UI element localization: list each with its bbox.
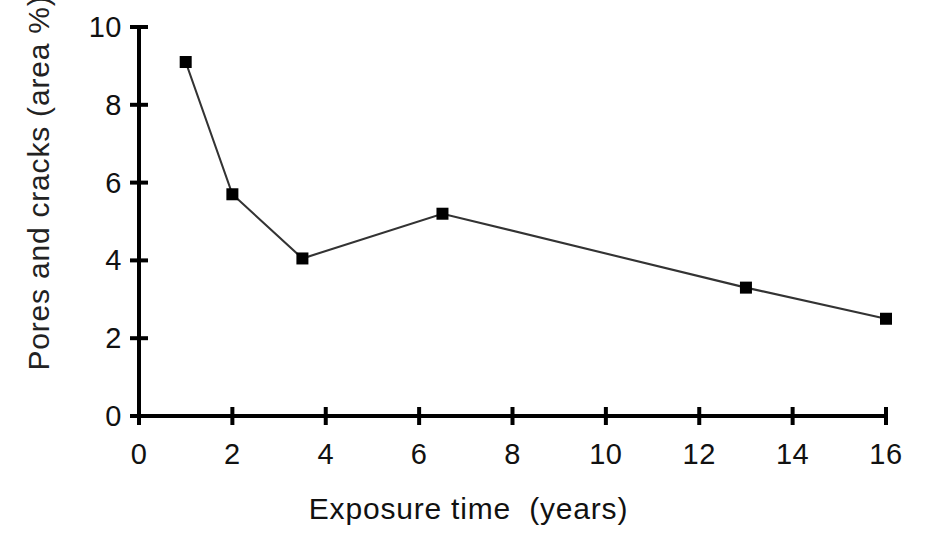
chart-figure: 0246810 0246810121416 Exposure time (yea…	[0, 0, 937, 548]
y-axis-title: Pores and cracks (area %)	[22, 0, 70, 398]
x-axis-tick-label: 2	[224, 438, 241, 471]
data-point-marker	[180, 56, 192, 68]
y-axis-tick-label: 0	[60, 400, 122, 433]
data-series-line	[186, 62, 886, 319]
x-axis-tick-label: 14	[776, 438, 809, 471]
x-axis-tick-label: 8	[504, 438, 521, 471]
data-point-marker	[740, 282, 752, 294]
data-point-marker	[296, 252, 308, 264]
x-axis-tick-label: 12	[683, 438, 716, 471]
data-point-marker	[880, 313, 892, 325]
data-point-marker	[436, 208, 448, 220]
x-axis-tick-label: 16	[869, 438, 902, 471]
data-point-marker	[226, 188, 238, 200]
data-series-markers	[180, 56, 892, 325]
x-axis-tick-label: 6	[411, 438, 428, 471]
x-axis-tick-label: 10	[589, 438, 622, 471]
x-axis-tick-label: 4	[317, 438, 334, 471]
x-axis-title: Exposure time (years)	[0, 492, 937, 526]
x-axis-tick-label: 0	[131, 438, 148, 471]
